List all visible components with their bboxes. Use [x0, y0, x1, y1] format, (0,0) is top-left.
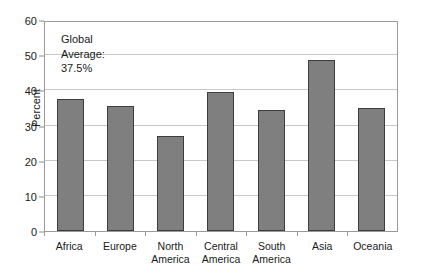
bar-central-america[interactable]: [207, 92, 234, 231]
x-axis-label-asia: Asia: [297, 240, 348, 265]
x-label-line-2: America: [246, 253, 297, 266]
annotation-line-3: 37.5%: [61, 61, 105, 76]
x-label-line-1: Central: [196, 240, 247, 253]
x-label-line-1: Africa: [44, 240, 95, 253]
bar-south-america[interactable]: [258, 110, 285, 231]
x-axis-label-europe: Europe: [95, 240, 146, 265]
x-tick-mark: [246, 232, 247, 236]
x-axis-labels: AfricaEuropeNorthAmericaCentralAmericaSo…: [44, 240, 398, 265]
annotation-global-average: Global Average: 37.5%: [61, 32, 105, 76]
x-tick-cell: [95, 232, 146, 237]
bar-europe[interactable]: [107, 106, 134, 231]
x-axis-ticks: [44, 232, 398, 237]
plot-area: Global Average: 37.5%: [44, 21, 398, 232]
bar-slot: [196, 22, 246, 231]
y-tick-label: 20: [25, 156, 37, 167]
bar-slot: [146, 22, 196, 231]
annotation-line-1: Global: [61, 32, 105, 47]
x-tick-cell: [347, 232, 398, 237]
bar-north-america[interactable]: [157, 136, 184, 231]
x-tick-cell: [145, 232, 196, 237]
annotation-line-2: Average:: [61, 47, 105, 62]
bar-slot: [347, 22, 397, 231]
y-tick-label: 60: [25, 16, 37, 27]
x-axis-label-oceania: Oceania: [347, 240, 398, 265]
bar-asia[interactable]: [308, 60, 335, 231]
bar-slot: [246, 22, 296, 231]
x-label-line-2: America: [196, 253, 247, 266]
x-axis-label-central-america: CentralAmerica: [196, 240, 247, 265]
x-tick-cell: [297, 232, 348, 237]
y-tick-label: 0: [31, 227, 37, 238]
y-tick-label: 10: [25, 191, 37, 202]
y-tick-label: 40: [25, 86, 37, 97]
x-tick-mark: [145, 232, 146, 236]
bar-chart: Percent 0102030405060 Global Average: 37…: [0, 0, 424, 277]
x-label-line-1: Asia: [297, 240, 348, 253]
x-tick-mark: [347, 232, 348, 236]
x-axis-label-africa: Africa: [44, 240, 95, 265]
bar-africa[interactable]: [57, 99, 84, 231]
y-tick-label: 50: [25, 51, 37, 62]
x-label-line-1: Europe: [95, 240, 146, 253]
x-axis-label-south-america: SouthAmerica: [246, 240, 297, 265]
x-tick-mark: [95, 232, 96, 236]
x-tick-mark: [44, 232, 45, 236]
x-label-line-1: South: [246, 240, 297, 253]
x-tick-cell: [44, 232, 95, 237]
x-label-line-1: North: [145, 240, 196, 253]
x-label-line-1: Oceania: [347, 240, 398, 253]
x-tick-mark: [196, 232, 197, 236]
x-label-line-2: America: [145, 253, 196, 266]
y-tick-label: 30: [25, 121, 37, 132]
x-tick-cell: [246, 232, 297, 237]
bar-slot: [296, 22, 346, 231]
x-tick-mark: [297, 232, 298, 236]
y-axis-ticks: 0102030405060: [0, 21, 44, 232]
bar-oceania[interactable]: [358, 108, 385, 231]
x-axis-label-north-america: NorthAmerica: [145, 240, 196, 265]
x-tick-cell: [196, 232, 247, 237]
